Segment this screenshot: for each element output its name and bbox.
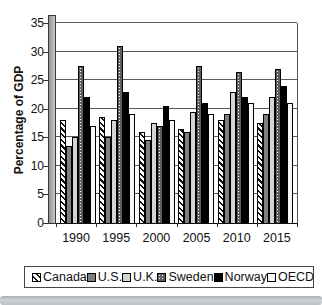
y-axis-tick bbox=[43, 137, 48, 138]
y-axis-tick-label: 35 bbox=[18, 17, 44, 29]
chart-3d-wall bbox=[48, 15, 56, 224]
y-axis-tick bbox=[43, 194, 48, 195]
x-axis-tick bbox=[177, 223, 178, 227]
x-axis-tick-label: 1995 bbox=[96, 231, 136, 245]
y-axis-tick-label: 20 bbox=[18, 103, 44, 115]
bar-oecd-2000 bbox=[169, 120, 175, 223]
bar-oecd-1995 bbox=[129, 114, 135, 223]
legend-label: U.S. bbox=[98, 270, 122, 284]
legend-swatch bbox=[122, 273, 131, 282]
legend-swatch bbox=[267, 273, 276, 282]
bar-oecd-1990 bbox=[90, 126, 96, 223]
y-axis-tick bbox=[43, 52, 48, 53]
legend-label: Sweden bbox=[168, 270, 213, 284]
legend-swatch bbox=[32, 273, 41, 282]
y-axis-tick-label: 30 bbox=[18, 46, 44, 58]
legend-label: U.K. bbox=[133, 270, 157, 284]
y-axis-tick-label: 5 bbox=[18, 188, 44, 200]
legend-item-canada: Canada bbox=[32, 270, 87, 284]
legend-item-oecd: OECD bbox=[267, 270, 314, 284]
legend-label: OECD bbox=[278, 270, 314, 284]
bar-group-2015 bbox=[257, 69, 293, 223]
x-axis-tick-label: 1990 bbox=[56, 231, 96, 245]
legend: CanadaU.S.U.K.SwedenNorwayOECD bbox=[24, 266, 314, 288]
y-axis-tick bbox=[43, 80, 48, 81]
x-axis-tick bbox=[56, 223, 57, 227]
y-axis-tick bbox=[43, 23, 48, 24]
legend-label: Norway bbox=[225, 270, 267, 284]
bar-group-2000 bbox=[139, 106, 175, 223]
x-axis-tick-label: 2000 bbox=[136, 231, 176, 245]
chart-screenshot: Percentage of GDP 05101520253035 1990199… bbox=[0, 0, 322, 305]
bar-group-2005 bbox=[178, 66, 214, 223]
y-axis-tick bbox=[43, 166, 48, 167]
y-axis-tick-label: 0 bbox=[18, 217, 44, 229]
bar-oecd-2010 bbox=[248, 103, 254, 223]
page-edge-shadow bbox=[0, 296, 322, 305]
y-axis-tick bbox=[43, 223, 48, 224]
x-axis-tick bbox=[136, 223, 137, 227]
bar-oecd-2005 bbox=[208, 114, 214, 223]
x-axis-tick bbox=[96, 223, 97, 227]
legend-item-norway: Norway bbox=[214, 270, 267, 284]
legend-item-uk: U.K. bbox=[122, 270, 157, 284]
x-axis-tick-label: 2005 bbox=[177, 231, 217, 245]
bar-group-1995 bbox=[99, 46, 135, 223]
bar-group-1990 bbox=[60, 66, 96, 223]
legend-item-sweden: Sweden bbox=[157, 270, 213, 284]
y-axis-tick-label: 10 bbox=[18, 160, 44, 172]
y-axis-tick bbox=[43, 109, 48, 110]
plot-area bbox=[56, 23, 298, 224]
bar-groups bbox=[56, 23, 297, 223]
y-axis-tick-label: 15 bbox=[18, 131, 44, 143]
bar-oecd-2015 bbox=[287, 103, 293, 223]
x-axis-tick bbox=[217, 223, 218, 227]
legend-item-us: U.S. bbox=[87, 270, 122, 284]
x-axis-tick bbox=[297, 223, 298, 227]
legend-swatch bbox=[87, 273, 96, 282]
legend-swatch bbox=[157, 273, 166, 282]
x-axis-tick-label: 2010 bbox=[217, 231, 257, 245]
legend-label: Canada bbox=[43, 270, 87, 284]
x-axis-tick-label: 2015 bbox=[257, 231, 297, 245]
legend-swatch bbox=[214, 273, 223, 282]
bar-group-2010 bbox=[218, 72, 254, 223]
x-axis-tick bbox=[257, 223, 258, 227]
y-axis-tick-label: 25 bbox=[18, 74, 44, 86]
